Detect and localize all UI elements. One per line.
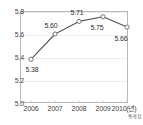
source-note: 통계청: [128, 114, 142, 119]
x-axis-ticks: [25, 101, 127, 104]
data-point-marker: [53, 32, 57, 36]
data-label: 5.66: [115, 35, 128, 42]
data-point-marker: [125, 25, 129, 29]
data-label: 5.38: [26, 66, 39, 73]
x-axis-tick-label: 2006: [24, 105, 39, 112]
x-axis-tick-label: 2009: [96, 105, 111, 112]
data-point-marker: [29, 57, 33, 61]
data-point-marker: [101, 15, 105, 19]
data-label: 5.71: [71, 9, 84, 16]
x-axis-tick-label: 2007: [48, 105, 63, 112]
x-axis-tick-label: 2010(년): [112, 105, 137, 112]
data-point-marker: [77, 19, 81, 23]
data-label: 5.60: [45, 22, 58, 29]
data-label: 5.75: [91, 24, 104, 31]
x-axis-tick-label: 2008: [72, 105, 87, 112]
line-chart: 5.8 5.6 5.4 5.2 5.0: [0, 0, 143, 125]
